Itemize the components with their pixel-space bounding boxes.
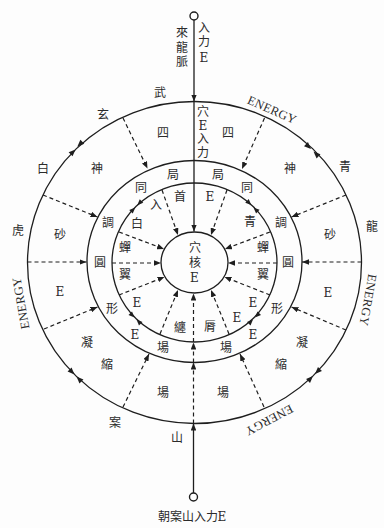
outer-ring-label: 場 — [217, 386, 229, 400]
inner-flow-arrowhead-icon — [253, 311, 261, 319]
outer-flow-arrowhead-icon — [75, 140, 84, 149]
top-source-label: 龍 — [176, 40, 188, 55]
outer-dashed-arrow — [43, 195, 98, 217]
energy-label-top-right: ENERGY — [245, 93, 299, 127]
outer-ring-label: 神 — [284, 162, 296, 176]
core-label: 穴 — [189, 240, 201, 255]
outer-ring-label: 縮 — [101, 357, 113, 372]
outer-ring-label: 砂 — [54, 228, 66, 242]
guardian-west-label: 白 — [37, 161, 49, 176]
bottom-input-label: 朝案山入力E — [158, 509, 227, 524]
outer-flow-arrowhead-icon — [312, 149, 321, 158]
inner-ring-label: 蟬 — [119, 241, 131, 255]
inner-ring-label: 入 — [150, 198, 162, 212]
outer-ring-label: E — [324, 286, 333, 300]
core-label: 核 — [189, 256, 201, 270]
inner-ring-label: E — [249, 296, 258, 310]
outer-dashed-arrow — [292, 307, 347, 330]
outer-dashed-arrow — [242, 118, 265, 169]
inner-ring-label: 青 — [244, 215, 256, 229]
middle-ring-label: 同 — [241, 181, 253, 195]
inner-ring-label: 脣 — [204, 320, 216, 334]
middle-ring-label: 調 — [275, 216, 287, 230]
outer-ring-label: 凝 — [81, 335, 93, 350]
bottom-input-node — [190, 493, 198, 501]
top-input-node — [190, 12, 198, 20]
top-source-label: 來 — [176, 26, 188, 40]
outer-ring-label: 砂 — [324, 228, 336, 242]
inner-ring-label: E — [206, 190, 215, 204]
diagram-canvas: 來 龍 脈 入 力 E 玄 武 白 虎 青 龍 案 山 ENERGY ENERG… — [0, 0, 384, 528]
middle-ring-label: 圓 — [282, 256, 294, 270]
inner-ring-label: 白 — [131, 216, 143, 231]
outer-ring-label: E — [56, 285, 65, 299]
axis-input-label: E — [199, 119, 208, 133]
axis-input-label: 力 — [197, 146, 209, 160]
axis-input-label: 入 — [197, 132, 209, 146]
guardian-west-label: 虎 — [12, 224, 24, 238]
top-input-label: E — [200, 51, 209, 65]
inner-ring-label: E — [133, 296, 142, 310]
outer-dashed-arrow — [123, 354, 149, 407]
outer-ring-label: 神 — [91, 162, 103, 176]
top-source-label: 脈 — [176, 55, 188, 69]
outer-dashed-arrow — [292, 195, 347, 217]
inner-ring-label: 首 — [174, 190, 186, 204]
middle-ring-label: 形 — [271, 302, 283, 316]
inner-ring-label: 蟬 — [257, 241, 269, 255]
inner-ring-label: 纏 — [174, 320, 186, 335]
outer-ring-label: 場 — [157, 386, 169, 400]
outer-dashed-arrow — [44, 307, 98, 329]
axis-input-label: 穴 — [197, 104, 209, 119]
middle-ring-label: 同 — [135, 181, 147, 195]
middle-ring-label: 場 — [157, 341, 169, 355]
middle-ring-label: 形 — [106, 302, 118, 316]
middle-ring-label: 局 — [212, 168, 224, 182]
middle-ring-label: E — [249, 328, 258, 342]
guardian-south-label: 案 — [109, 415, 121, 430]
core-label: E — [190, 271, 199, 285]
guardian-south-label: 山 — [171, 431, 183, 445]
guardian-east-label: 龍 — [366, 219, 378, 234]
outer-ring-label: 四 — [157, 126, 169, 140]
middle-ring-label: 局 — [167, 168, 179, 182]
top-input-label: 入 — [198, 21, 210, 35]
guardian-east-label: 青 — [339, 160, 351, 174]
outer-dashed-arrow — [240, 354, 264, 407]
energy-flow-diagram: 來 龍 脈 入 力 E 玄 武 白 虎 青 龍 案 山 ENERGY ENERG… — [0, 0, 384, 528]
guardian-north-label: 武 — [154, 86, 166, 100]
outer-ring-label: 凝 — [296, 335, 308, 350]
outer-dashed-arrow — [123, 118, 148, 169]
middle-ring-label: E — [131, 328, 140, 342]
inner-flow-arrowhead-icon — [247, 318, 255, 326]
middle-ring-label: 場 — [220, 341, 232, 355]
outer-flow-arrowhead-icon — [304, 142, 313, 151]
inner-ring-label: 翼 — [257, 268, 269, 282]
middle-ring-label: 調 — [102, 216, 114, 230]
outer-ring-label: 四 — [222, 126, 234, 140]
inner-ring-label: E — [233, 311, 242, 325]
top-input-label: 力 — [198, 35, 210, 49]
guardian-north-label: 玄 — [97, 107, 109, 122]
outer-ring-label: 縮 — [275, 357, 287, 372]
middle-ring-label: 圓 — [94, 256, 106, 270]
inner-ring-label: 翼 — [119, 268, 131, 282]
